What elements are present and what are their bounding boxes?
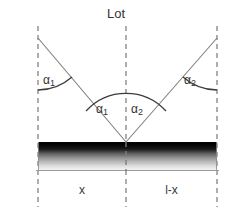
ray-lines xyxy=(38,38,217,142)
page-title: Lot xyxy=(0,7,232,20)
right-ray-line xyxy=(126,38,217,142)
dashed-guide-lines xyxy=(38,26,217,207)
angle-right-symbol: α xyxy=(184,73,191,87)
angle-label-left: α1 xyxy=(43,74,55,88)
angle-label-right: α2 xyxy=(184,74,196,88)
angle-center-left-symbol: α xyxy=(96,102,103,116)
lot-angle-diagram: Lot α1 α1 α2 α2 x l-x xyxy=(0,0,232,211)
angle-center-left-subscript: 1 xyxy=(103,107,108,117)
angle-right-subscript: 2 xyxy=(191,78,196,88)
angle-center-right-subscript: 2 xyxy=(138,107,143,117)
angle-left-symbol: α xyxy=(43,73,50,87)
angle-center-right-symbol: α xyxy=(131,102,138,116)
substrate-bar-fill xyxy=(38,142,217,170)
segment-label-left: x xyxy=(38,184,126,196)
angle-label-center-left: α1 xyxy=(96,103,108,117)
segment-label-right: l-x xyxy=(126,184,217,196)
diagram-canvas xyxy=(0,0,232,211)
angle-label-center-right: α2 xyxy=(131,103,143,117)
substrate-bar xyxy=(36,142,219,171)
angle-left-subscript: 1 xyxy=(50,78,55,88)
left-ray-line xyxy=(38,38,126,142)
